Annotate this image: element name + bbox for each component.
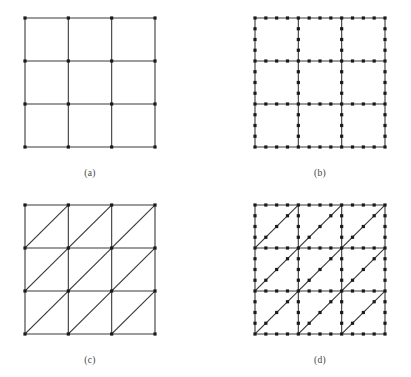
mesh-node xyxy=(253,27,256,30)
mesh-node xyxy=(340,81,343,84)
mesh-node xyxy=(383,300,386,303)
mesh-node xyxy=(297,92,300,95)
mesh-node xyxy=(318,289,321,292)
mesh-node xyxy=(286,246,289,249)
mesh-node xyxy=(275,16,278,19)
mesh-node xyxy=(308,16,311,19)
mesh-node xyxy=(340,145,343,148)
mesh-node xyxy=(253,257,256,260)
mesh-node xyxy=(67,145,70,148)
mesh-node xyxy=(297,113,300,116)
mesh-node xyxy=(383,70,386,73)
mesh-node xyxy=(373,102,376,105)
mesh-node xyxy=(275,225,278,228)
mesh-node xyxy=(383,59,386,62)
mesh-node xyxy=(383,203,386,206)
mesh-node xyxy=(153,145,156,148)
mesh-node xyxy=(253,145,256,148)
mesh-node xyxy=(275,59,278,62)
mesh-node xyxy=(253,279,256,282)
mesh-node xyxy=(67,16,70,19)
mesh-node xyxy=(383,225,386,228)
mesh-node xyxy=(373,203,376,206)
mesh-node xyxy=(286,214,289,217)
mesh-node xyxy=(308,332,311,335)
panel-d-label: (d) xyxy=(253,355,387,365)
mesh-node xyxy=(264,332,267,335)
mesh-node xyxy=(253,268,256,271)
mesh-node xyxy=(286,257,289,260)
mesh-node xyxy=(340,289,343,292)
mesh-node xyxy=(383,257,386,260)
mesh-node xyxy=(23,332,26,335)
mesh-node xyxy=(297,16,300,19)
mesh-node xyxy=(340,92,343,95)
mesh-nodes xyxy=(23,16,156,148)
mesh-node xyxy=(67,246,70,249)
mesh-node xyxy=(264,322,267,325)
mesh-node xyxy=(383,92,386,95)
mesh-node xyxy=(264,145,267,148)
mesh-node xyxy=(253,332,256,335)
mesh-node xyxy=(153,102,156,105)
mesh-node xyxy=(383,322,386,325)
mesh-node xyxy=(297,311,300,314)
mesh-node xyxy=(329,257,332,260)
mesh-node xyxy=(351,102,354,105)
mesh-node xyxy=(153,16,156,19)
mesh-node xyxy=(23,59,26,62)
mesh-node xyxy=(362,203,365,206)
mesh-node xyxy=(297,81,300,84)
mesh-diagram-b xyxy=(253,16,387,149)
mesh-node xyxy=(383,268,386,271)
mesh-node xyxy=(373,289,376,292)
mesh-node xyxy=(253,81,256,84)
mesh-node xyxy=(297,268,300,271)
mesh-node xyxy=(253,246,256,249)
mesh-node xyxy=(153,246,156,249)
mesh-node xyxy=(308,322,311,325)
mesh-node xyxy=(67,289,70,292)
mesh-node xyxy=(253,38,256,41)
mesh-figure: (a) (b) (c) (d) xyxy=(0,0,411,377)
mesh-node xyxy=(308,102,311,105)
mesh-node xyxy=(110,16,113,19)
mesh-node xyxy=(286,289,289,292)
mesh-node xyxy=(373,246,376,249)
mesh-node xyxy=(373,257,376,260)
mesh-node xyxy=(286,300,289,303)
mesh-node xyxy=(329,59,332,62)
mesh-node xyxy=(253,135,256,138)
panel-a-label: (a) xyxy=(23,168,157,178)
mesh-node xyxy=(351,246,354,249)
mesh-node xyxy=(383,311,386,314)
mesh-node xyxy=(308,145,311,148)
mesh-node xyxy=(308,246,311,249)
mesh-node xyxy=(383,16,386,19)
mesh-node xyxy=(318,59,321,62)
mesh-node xyxy=(275,203,278,206)
mesh-node xyxy=(253,124,256,127)
mesh-node xyxy=(264,279,267,282)
mesh-node xyxy=(297,203,300,206)
mesh-node xyxy=(308,289,311,292)
mesh-node xyxy=(297,332,300,335)
mesh-node xyxy=(383,27,386,30)
mesh-node xyxy=(383,279,386,282)
mesh-node xyxy=(318,16,321,19)
mesh-node xyxy=(340,135,343,138)
mesh-node xyxy=(153,289,156,292)
mesh-node xyxy=(253,214,256,217)
mesh-node xyxy=(264,289,267,292)
mesh-node xyxy=(373,214,376,217)
mesh-node xyxy=(318,311,321,314)
mesh-node xyxy=(153,203,156,206)
mesh-node xyxy=(110,246,113,249)
mesh-node xyxy=(264,203,267,206)
mesh-node xyxy=(383,38,386,41)
mesh-node xyxy=(286,332,289,335)
mesh-node xyxy=(383,81,386,84)
mesh-node xyxy=(318,203,321,206)
mesh-node xyxy=(264,16,267,19)
mesh-node xyxy=(318,246,321,249)
